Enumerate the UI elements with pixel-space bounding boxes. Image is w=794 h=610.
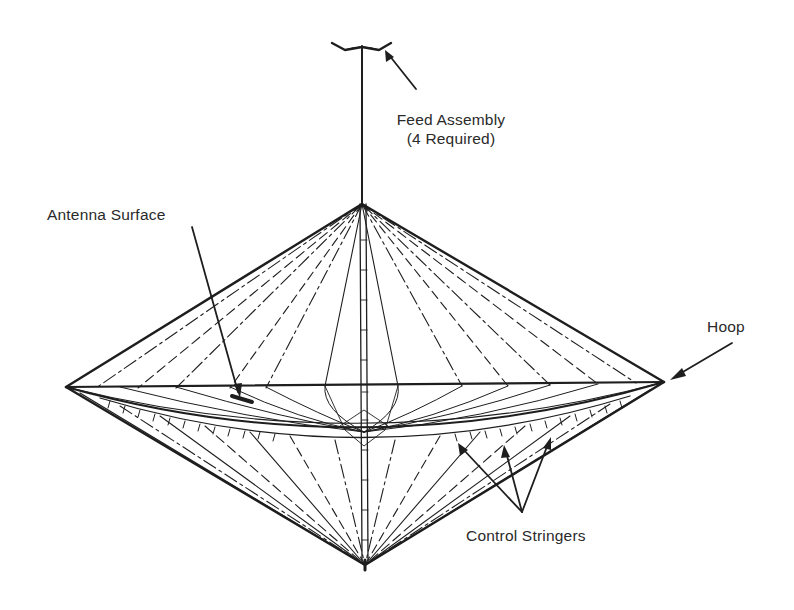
antenna-surface-label: Antenna Surface bbox=[47, 205, 165, 224]
hoop-segments bbox=[108, 401, 622, 441]
feed-assembly-note: (4 Required) bbox=[383, 129, 519, 148]
feed-assembly-label: Feed Assembly bbox=[383, 110, 519, 129]
hoop-column-antenna-diagram bbox=[0, 0, 794, 610]
control-stringers-label: Control Stringers bbox=[466, 526, 586, 545]
feed-assembly-label-block: Feed Assembly (4 Required) bbox=[383, 110, 519, 148]
hoop-label: Hoop bbox=[707, 317, 745, 336]
hoop-leader-arrow bbox=[670, 343, 732, 380]
feed-assembly-leader-arrow bbox=[385, 50, 416, 89]
central-column bbox=[360, 204, 368, 560]
antenna-surface-leader-arrow bbox=[192, 227, 252, 402]
